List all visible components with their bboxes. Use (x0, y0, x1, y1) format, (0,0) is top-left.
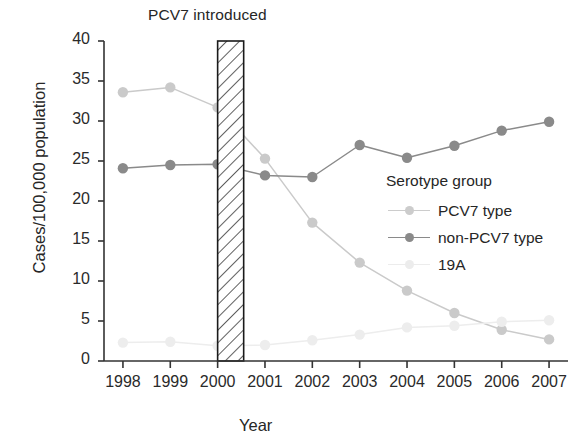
legend-item-label: PCV7 type (432, 202, 512, 220)
y-tick-0: 0 (56, 350, 90, 368)
pcv7-introduced-annotation: PCV7 introduced (148, 6, 267, 24)
x-tick-2003: 2003 (336, 373, 384, 391)
y-tick-20: 20 (56, 190, 90, 208)
legend-marker-icon (386, 231, 432, 245)
x-tick-2000: 2000 (194, 373, 242, 391)
legend-marker-icon (386, 258, 432, 272)
chart-legend: Serotype group PCV7 typenon-PCV7 type19A (386, 172, 543, 278)
y-tick-25: 25 (56, 150, 90, 168)
x-tick-2007: 2007 (525, 373, 573, 391)
x-tick-1998: 1998 (99, 373, 147, 391)
y-axis-label: Cases/100,000 population (30, 53, 49, 303)
y-tick-15: 15 (56, 230, 90, 248)
x-tick-2004: 2004 (383, 373, 431, 391)
y-tick-30: 30 (56, 110, 90, 128)
x-axis-label: Year (239, 416, 272, 435)
legend-item-label: 19A (432, 256, 466, 274)
x-tick-2001: 2001 (241, 373, 289, 391)
legend-title: Serotype group (386, 172, 543, 190)
legend-item-3[interactable]: 19A (386, 251, 543, 278)
x-tick-2005: 2005 (430, 373, 478, 391)
x-tick-2002: 2002 (288, 373, 336, 391)
y-tick-5: 5 (56, 310, 90, 328)
y-tick-40: 40 (56, 30, 90, 48)
x-tick-2006: 2006 (478, 373, 526, 391)
y-tick-35: 35 (56, 70, 90, 88)
legend-item-2[interactable]: non-PCV7 type (386, 224, 543, 251)
chart-figure: PCV7 introduced Cases/100,000 population… (0, 0, 578, 445)
legend-item-label: non-PCV7 type (432, 229, 543, 247)
legend-marker-icon (386, 204, 432, 218)
y-tick-10: 10 (56, 270, 90, 288)
legend-items: PCV7 typenon-PCV7 type19A (386, 197, 543, 278)
legend-item-1[interactable]: PCV7 type (386, 197, 543, 224)
x-tick-1999: 1999 (146, 373, 194, 391)
